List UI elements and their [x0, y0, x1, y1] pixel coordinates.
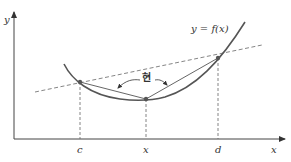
tick-label-c: c — [77, 144, 83, 155]
convex-function-diagram: y x y = f(x) 현 c x d — [0, 0, 291, 162]
point-d — [216, 56, 220, 60]
arrow-to-left-chord — [118, 80, 140, 88]
dashed-secant-line — [35, 45, 262, 92]
chord-label: 현 — [142, 71, 151, 83]
x-axis-label: x — [271, 144, 277, 155]
curve-label: y = f(x) — [190, 23, 229, 34]
chord-x-d — [146, 58, 218, 99]
point-x — [144, 97, 148, 101]
point-c — [78, 80, 82, 84]
y-axis-label: y — [3, 14, 10, 25]
tick-label-x: x — [143, 144, 149, 155]
arrow-to-right-chord — [155, 80, 167, 85]
tick-label-d: d — [215, 144, 221, 155]
